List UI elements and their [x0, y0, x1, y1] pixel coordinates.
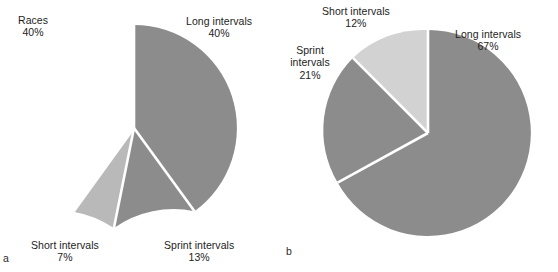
pie-a-label-long-intervals: Long intervals 40% — [186, 15, 252, 40]
pie-b-label-sprint-intervals-pct: 21% — [281, 69, 339, 81]
pie-b-label-long-intervals-name: Long intervals — [455, 28, 521, 40]
chart-panel-b: Short intervals 12% Sprint intervals 21%… — [279, 0, 558, 272]
pie-b-label-long-intervals-pct: 67% — [455, 40, 521, 52]
pie-b-label-short-intervals-pct: 12% — [322, 17, 390, 29]
panel-letter-b: b — [286, 245, 292, 257]
pie-a-label-sprint-intervals-pct: 13% — [164, 251, 234, 263]
figure-pie-charts: Races 40% Long intervals 40% Short inter… — [0, 0, 558, 272]
pie-a-label-long-intervals-pct: 40% — [186, 27, 252, 39]
pie-a-label-races: Races 40% — [18, 14, 48, 39]
pie-a-label-short-intervals: Short intervals 7% — [31, 239, 99, 264]
pie-a-label-short-intervals-pct: 7% — [31, 251, 99, 263]
panel-letter-a: a — [3, 252, 9, 264]
pie-b-label-long-intervals: Long intervals 67% — [455, 28, 521, 53]
pie-a-label-long-intervals-name: Long intervals — [186, 15, 252, 27]
chart-panel-a: Races 40% Long intervals 40% Short inter… — [0, 0, 279, 272]
pie-a-label-races-pct: 40% — [18, 26, 48, 38]
pie-a-label-sprint-intervals-name: Sprint intervals — [164, 239, 234, 251]
pie-a-label-short-intervals-name: Short intervals — [31, 239, 99, 251]
pie-b-label-short-intervals: Short intervals 12% — [322, 5, 390, 30]
pie-chart-a — [0, 0, 279, 272]
pie-a-label-sprint-intervals: Sprint intervals 13% — [164, 239, 234, 264]
pie-b-label-sprint-intervals: Sprint intervals 21% — [281, 44, 339, 81]
pie-a-label-races-name: Races — [18, 14, 48, 26]
pie-b-label-sprint-intervals-name: Sprint intervals — [290, 44, 330, 68]
pie-b-label-short-intervals-name: Short intervals — [322, 5, 390, 17]
